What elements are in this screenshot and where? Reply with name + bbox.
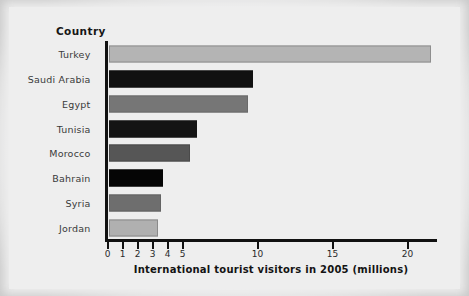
x-axis-tick [137,242,139,249]
x-axis-tick-label: 0 [105,249,111,259]
bar [109,170,163,187]
bar-row: Saudi Arabia [0,66,469,91]
bar-row: Morocco [0,141,469,166]
x-axis-tick [332,242,334,249]
bar-category-label: Turkey [0,48,99,59]
x-axis-tick [257,242,259,249]
bar-row: Turkey [0,42,469,67]
x-axis-tick-label: 5 [180,249,186,259]
x-axis-tick-label: 3 [150,249,156,259]
x-axis-tick [122,242,124,249]
bar-row: Jordan [0,216,469,241]
bar [109,195,162,212]
x-axis-tick [167,242,169,249]
bar [109,95,249,112]
chart-screenshot: Country TurkeySaudi ArabiaEgyptTunisiaMo… [0,0,469,296]
bar-category-label: Bahrain [0,173,99,184]
bar-chart: Country TurkeySaudi ArabiaEgyptTunisiaMo… [0,0,469,296]
bar-category-label: Syria [0,198,99,209]
x-axis-tick-label: 2 [135,249,141,259]
x-axis-tick-label: 1 [120,249,126,259]
category-axis-header: Country [56,25,106,37]
x-axis-tick-label: 15 [327,249,338,259]
bar [109,220,159,237]
bar [109,145,190,162]
bar-category-label: Egypt [0,98,99,109]
x-axis-tick [182,242,184,249]
bar-category-label: Jordan [0,223,99,234]
bar [109,120,198,137]
bar-row: Egypt [0,91,469,116]
x-axis-tick-label: 4 [165,249,171,259]
x-axis-tick-label: 20 [402,249,413,259]
x-axis-title: International tourist visitors in 2005 (… [105,264,437,275]
x-axis-tick-label: 10 [252,249,263,259]
bar-category-label: Morocco [0,148,99,159]
x-axis-tick [407,242,409,249]
bar-row: Tunisia [0,116,469,141]
bar [109,70,253,87]
bar-category-label: Tunisia [0,123,99,134]
x-axis-tick [152,242,154,249]
bar-category-label: Saudi Arabia [0,73,99,84]
bar-row: Bahrain [0,166,469,191]
x-axis-tick [107,242,109,249]
bar [109,45,432,62]
bar-row: Syria [0,191,469,216]
